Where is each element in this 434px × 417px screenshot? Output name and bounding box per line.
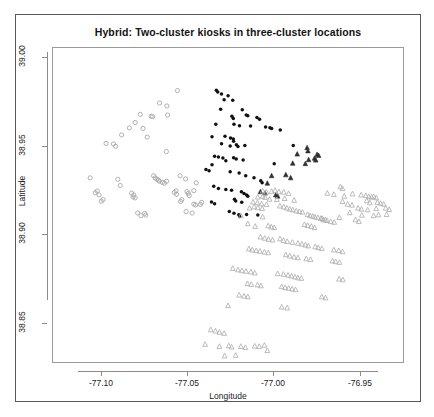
y-axis-line bbox=[47, 52, 48, 300]
y-axis-label: Latitude bbox=[17, 161, 27, 221]
x-axis-label: Longitude bbox=[52, 391, 404, 401]
x-tick-mark bbox=[187, 371, 188, 376]
page-title: Hybrid: Two-cluster kiosks in three-clus… bbox=[52, 26, 404, 38]
x-tick-label: -76.95 bbox=[338, 378, 382, 388]
y-tick-mark bbox=[42, 323, 47, 324]
x-tick-mark bbox=[360, 371, 361, 376]
y-tick-mark bbox=[42, 57, 47, 58]
x-tick-mark bbox=[101, 371, 102, 376]
y-tick-label: 39.00 bbox=[17, 39, 27, 73]
plot-panel bbox=[52, 47, 404, 363]
x-tick-label: -77.10 bbox=[79, 378, 123, 388]
figure-root: Hybrid: Two-cluster kiosks in three-clus… bbox=[0, 0, 434, 417]
x-tick-label: -77.05 bbox=[165, 378, 209, 388]
y-tick-mark bbox=[42, 234, 47, 235]
y-tick-label: 38.85 bbox=[17, 305, 27, 339]
x-tick-mark bbox=[273, 371, 274, 376]
x-axis-line bbox=[78, 371, 378, 372]
y-tick-label: 38.90 bbox=[17, 216, 27, 250]
y-tick-mark bbox=[42, 146, 47, 147]
x-tick-label: -77.00 bbox=[251, 378, 295, 388]
y-tick-label: 38.95 bbox=[17, 128, 27, 162]
